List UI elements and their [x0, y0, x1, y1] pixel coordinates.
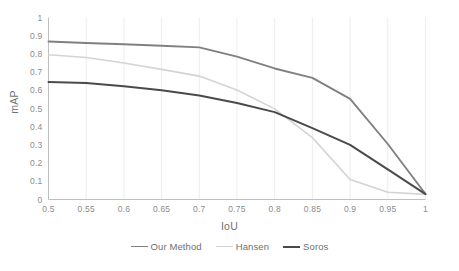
y-tick-label: 0.7 — [17, 67, 43, 77]
x-tick-label: 0.6 — [107, 204, 141, 214]
legend-label: Soros — [303, 241, 328, 252]
x-tick-label: 0.7 — [182, 204, 216, 214]
chart-container: 00.10.20.30.40.50.60.70.80.91 0.50.550.6… — [0, 0, 459, 271]
legend-swatch-line-icon — [216, 246, 233, 247]
x-tick-label: 0.8 — [258, 204, 292, 214]
x-tick-label: 0.55 — [69, 204, 103, 214]
x-tick-label: 1 — [409, 204, 443, 214]
x-axis-title: IoU — [0, 220, 459, 232]
legend-swatch-line-icon — [131, 246, 148, 247]
gridlines — [49, 18, 426, 200]
chart-legend: Our MethodHansenSoros — [0, 241, 459, 252]
legend-item-hansen[interactable]: Hansen — [216, 241, 269, 252]
x-tick-label: 0.85 — [295, 204, 329, 214]
y-tick-label: 0.8 — [17, 49, 43, 59]
x-tick-label: 0.9 — [333, 204, 367, 214]
legend-label: Hansen — [236, 241, 269, 252]
y-tick-label: 0.4 — [17, 122, 43, 132]
y-tick-label: 0.6 — [17, 85, 43, 95]
legend-item-soros[interactable]: Soros — [283, 241, 328, 252]
y-tick-label: 0.9 — [17, 31, 43, 41]
y-tick-label: 0.1 — [17, 176, 43, 186]
y-tick-label: 0.3 — [17, 140, 43, 150]
y-tick-label: 0.5 — [17, 104, 43, 114]
x-tick-label: 0.5 — [32, 204, 66, 214]
x-tick-label: 0.95 — [371, 204, 405, 214]
x-tick-label: 0.75 — [220, 204, 254, 214]
y-axis-title: mAP — [8, 82, 20, 122]
y-tick-label: 1 — [17, 13, 43, 23]
legend-swatch-line-icon — [283, 246, 300, 248]
y-tick-label: 0.2 — [17, 158, 43, 168]
legend-label: Our Method — [151, 241, 202, 252]
legend-item-our-method[interactable]: Our Method — [131, 241, 202, 252]
x-tick-label: 0.65 — [145, 204, 179, 214]
